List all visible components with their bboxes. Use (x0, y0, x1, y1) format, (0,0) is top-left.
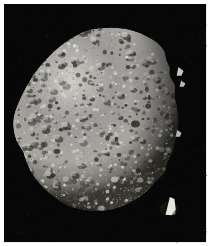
photo-frame (0, 0, 210, 246)
frame-border-top (0, 0, 210, 4)
frame-border-left (0, 0, 4, 246)
asteroid-photograph (4, 4, 210, 246)
